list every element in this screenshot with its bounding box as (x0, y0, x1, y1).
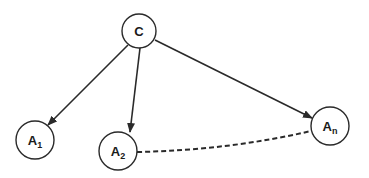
node-a1: A1 (16, 121, 54, 159)
node-c: C (122, 14, 156, 48)
edge-c-to-an (155, 40, 312, 118)
node-a1-subscript: 1 (37, 140, 42, 150)
edge-c-to-a1 (48, 45, 128, 125)
edge-c-to-a2 (130, 48, 140, 132)
hierarchy-diagram: C A1 A2 An (0, 0, 369, 178)
node-a2-subscript: 2 (120, 151, 125, 161)
node-an: An (311, 107, 349, 145)
node-a2: A2 (99, 132, 137, 170)
edge-a2-to-an-dashed (137, 131, 311, 152)
node-an-subscript: n (332, 126, 338, 136)
node-c-label: C (134, 24, 144, 39)
